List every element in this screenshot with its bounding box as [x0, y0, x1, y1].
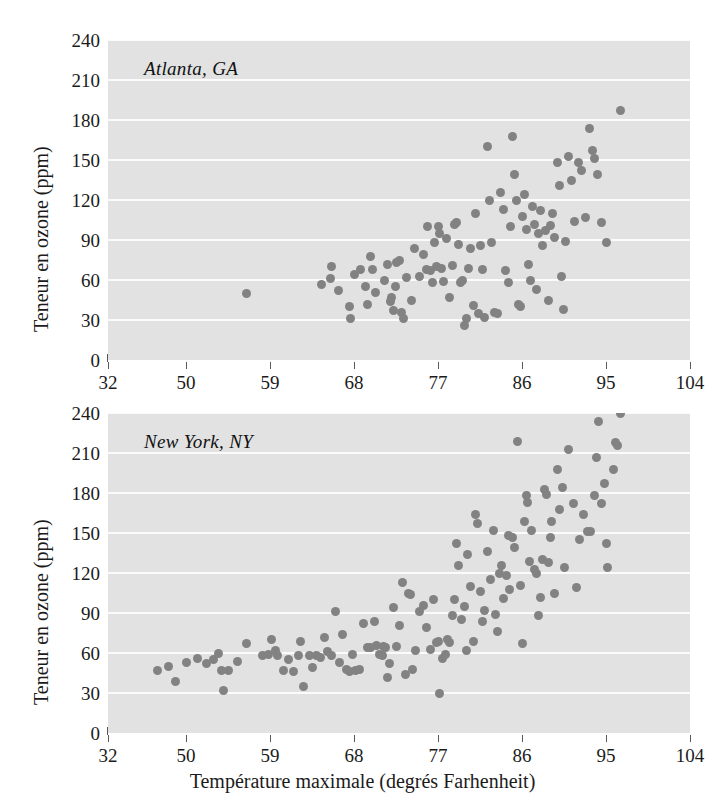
data-point — [506, 222, 515, 231]
data-point — [233, 657, 242, 666]
plot-area-newyork — [108, 413, 690, 733]
data-point — [389, 603, 398, 612]
data-point — [555, 181, 564, 190]
data-point — [542, 490, 551, 499]
data-point — [544, 296, 553, 305]
data-point — [592, 453, 601, 462]
data-point — [395, 256, 404, 265]
data-point — [512, 196, 521, 205]
data-point — [478, 265, 487, 274]
data-point — [366, 252, 375, 261]
data-point — [550, 233, 559, 242]
x-tick-label: 50 — [161, 746, 211, 765]
data-point — [471, 209, 480, 218]
data-point — [411, 646, 420, 655]
chart-title-newyork: New York, NY — [144, 431, 253, 453]
data-point — [338, 630, 347, 639]
data-point — [497, 561, 506, 570]
data-point — [530, 220, 539, 229]
x-tick-label: 77 — [413, 746, 463, 765]
data-point — [536, 593, 545, 602]
data-point — [460, 602, 469, 611]
chart-title-atlanta: Atlanta, GA — [144, 58, 238, 80]
data-point — [523, 498, 532, 507]
data-point — [363, 300, 372, 309]
data-point — [326, 274, 335, 283]
y-tick-label: 240 — [40, 404, 100, 423]
data-point — [577, 166, 586, 175]
data-point — [602, 238, 611, 247]
gridline — [108, 199, 690, 201]
data-point — [289, 667, 298, 676]
data-point — [600, 479, 609, 488]
data-point — [381, 643, 390, 652]
data-point — [214, 649, 223, 658]
x-tick-mark — [690, 362, 691, 369]
data-point — [555, 505, 564, 514]
gridline — [108, 119, 690, 121]
gridline — [108, 159, 690, 161]
data-point — [368, 265, 377, 274]
data-point — [320, 633, 329, 642]
data-point — [224, 666, 233, 675]
data-point — [593, 170, 602, 179]
data-point — [485, 196, 494, 205]
x-tick-mark — [522, 735, 523, 742]
data-point — [408, 665, 417, 674]
data-point — [586, 527, 595, 536]
data-point — [489, 526, 498, 535]
data-point — [570, 217, 579, 226]
data-point — [331, 607, 340, 616]
data-point — [487, 238, 496, 247]
data-point — [422, 623, 431, 632]
data-point — [193, 654, 202, 663]
y-tick-label: 180 — [40, 484, 100, 503]
data-point — [387, 293, 396, 302]
data-point — [391, 282, 400, 291]
data-point — [557, 272, 566, 281]
data-point — [356, 265, 365, 274]
data-point — [242, 639, 251, 648]
x-tick-label: 104 — [665, 746, 715, 765]
data-point — [164, 662, 173, 671]
data-point — [445, 293, 454, 302]
gridline — [108, 40, 690, 41]
data-point — [452, 218, 461, 227]
data-point — [616, 413, 625, 418]
data-point — [518, 639, 527, 648]
chart-panel-newyork: New York, NY 0306090120150180210240 3250… — [0, 390, 725, 808]
data-point — [385, 659, 394, 668]
x-tick-mark — [270, 735, 271, 742]
x-tick-mark — [354, 362, 355, 369]
data-point — [613, 441, 622, 450]
data-point — [572, 583, 581, 592]
data-point — [294, 651, 303, 660]
data-point — [616, 106, 625, 115]
y-axis-label-newyork: Teneur en ozone (ppm) — [30, 519, 53, 705]
data-point — [518, 212, 527, 221]
data-point — [383, 260, 392, 269]
y-tick-label: 0 — [40, 351, 100, 370]
data-point — [410, 244, 419, 253]
data-point — [219, 686, 228, 695]
data-point — [415, 272, 424, 281]
data-point — [483, 547, 492, 556]
data-point — [524, 260, 533, 269]
data-point — [402, 273, 411, 282]
data-point — [508, 533, 517, 542]
data-point — [359, 619, 368, 628]
data-point — [559, 305, 568, 314]
data-point — [553, 465, 562, 474]
data-point — [546, 533, 555, 542]
data-point — [502, 571, 511, 580]
data-point — [267, 635, 276, 644]
data-point — [547, 517, 556, 526]
x-tick-mark — [186, 362, 187, 369]
data-point — [527, 526, 536, 535]
data-point — [279, 666, 288, 675]
data-point — [380, 276, 389, 285]
data-point — [395, 621, 404, 630]
data-point — [457, 615, 466, 624]
y-axis-label-atlanta: Teneur en ozone (ppm) — [30, 146, 53, 332]
gridline — [108, 413, 690, 414]
